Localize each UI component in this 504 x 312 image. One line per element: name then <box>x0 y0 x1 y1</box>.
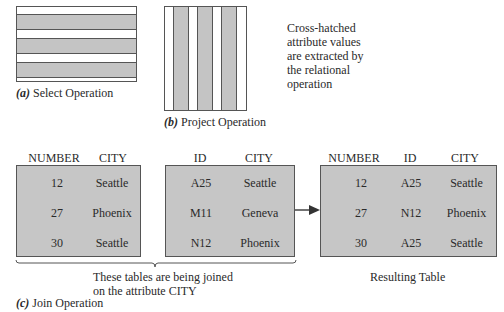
result-cell: A25 <box>391 176 431 191</box>
selected-row <box>17 38 136 54</box>
note-line: are extracted by <box>287 49 364 63</box>
project-caption-letter: (b) <box>164 115 178 129</box>
project-operation-diagram <box>164 6 247 111</box>
join-note: These tables are being joined on the att… <box>93 270 233 298</box>
select-caption-letter: (a) <box>16 86 30 100</box>
table2: A25 Seattle M11 Geneva N12 Phoenix <box>165 165 295 257</box>
selected-column <box>221 7 237 110</box>
selected-row <box>17 14 136 30</box>
table1: 12 Seattle 27 Phoenix 30 Seattle <box>16 165 141 257</box>
result-header-number: NUMBER <box>326 151 382 166</box>
join-arrow-icon <box>295 204 321 216</box>
result-header-city: CITY <box>440 151 490 166</box>
select-caption: (a) Select Operation <box>16 86 113 101</box>
result-cell: A25 <box>391 236 431 251</box>
bracket-icon <box>14 259 298 269</box>
project-caption-text: Project Operation <box>181 115 266 129</box>
table2-cell: Geneva <box>234 206 286 221</box>
selected-row <box>17 62 136 78</box>
table2-cell: A25 <box>181 176 221 191</box>
table2-cell: Seattle <box>234 176 286 191</box>
note-line: attribute values <box>287 35 364 49</box>
table2-header-id: ID <box>180 151 220 166</box>
result-cell: Phoenix <box>439 206 494 221</box>
table1-header-city: CITY <box>88 151 138 166</box>
join-note-line: on the attribute CITY <box>93 284 233 298</box>
note-line: Cross-hatched <box>287 21 364 35</box>
table1-header-number: NUMBER <box>26 151 82 166</box>
table1-cell: 27 <box>37 206 77 221</box>
join-caption-letter: (c) <box>16 296 29 310</box>
table1-cell: Phoenix <box>87 206 137 221</box>
table1-cell: Seattle <box>87 236 137 251</box>
note-line: operation <box>287 77 364 91</box>
select-operation-diagram <box>16 6 137 82</box>
result-cell: 30 <box>341 236 381 251</box>
join-caption-text: Join Operation <box>32 296 103 310</box>
result-cell: 27 <box>341 206 381 221</box>
table1-cell: 30 <box>37 236 77 251</box>
selected-column <box>173 7 189 110</box>
result-cell: Seattle <box>439 176 494 191</box>
join-note-line: These tables are being joined <box>93 270 233 284</box>
result-header-id: ID <box>390 151 430 166</box>
table2-header-city: CITY <box>234 151 284 166</box>
table1-cell: 12 <box>37 176 77 191</box>
table2-cell: N12 <box>181 236 221 251</box>
cross-hatch-note: Cross-hatched attribute values are extra… <box>287 21 364 91</box>
table2-cell: Phoenix <box>234 236 286 251</box>
result-cell: N12 <box>391 206 431 221</box>
selected-column <box>197 7 213 110</box>
result-caption: Resulting Table <box>370 270 445 285</box>
table1-cell: Seattle <box>87 176 137 191</box>
result-table: 12 A25 Seattle 27 N12 Phoenix 30 A25 Sea… <box>320 165 497 257</box>
table2-cell: M11 <box>181 206 221 221</box>
select-caption-text: Select Operation <box>33 86 113 100</box>
result-cell: Seattle <box>439 236 494 251</box>
note-line: the relational <box>287 63 364 77</box>
result-cell: 12 <box>341 176 381 191</box>
project-caption: (b) Project Operation <box>164 115 266 130</box>
join-caption: (c) Join Operation <box>16 296 103 311</box>
